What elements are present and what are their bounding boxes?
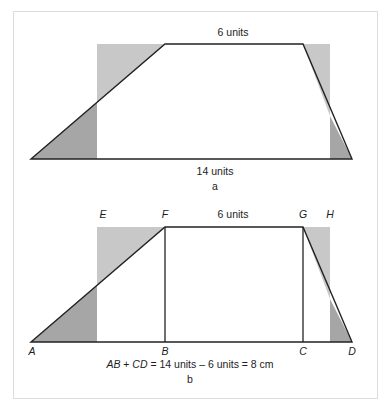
panel-b-equation: AB + CD = 14 units – 6 units = 8 cm <box>106 358 273 370</box>
equation-plus: + <box>120 358 132 370</box>
figure-root: 6 units 14 units a E F 6 units G H A B C… <box>0 0 391 413</box>
panel-b-top-length-label: 6 units <box>218 208 249 220</box>
panel-b-vertex-label-g: G <box>299 208 307 220</box>
figure-geometry <box>0 0 391 413</box>
panel-b-vertex-label-c: C <box>299 345 307 357</box>
panel-a-bottom-length-label: 14 units <box>197 165 234 177</box>
panel-a-top-length-label: 6 units <box>218 26 249 38</box>
panel-b-vertex-label-b: B <box>161 345 168 357</box>
panel-a-geometry <box>31 44 352 159</box>
panel-b-vertex-label-e: E <box>99 208 106 220</box>
panel-b-vertex-label-a: A <box>28 345 35 357</box>
panel-b-tag: b <box>187 373 193 385</box>
equation-term-ab: AB <box>106 358 120 370</box>
panel-b-geometry <box>31 227 352 342</box>
panel-b-vertex-label-h: H <box>326 208 334 220</box>
panel-b-vertex-label-f: F <box>162 208 168 220</box>
panel-b-vertex-label-d: D <box>348 345 356 357</box>
equation-term-cd: CD <box>132 358 147 370</box>
panel-a-tag: a <box>212 180 218 192</box>
equation-remainder: = 14 units – 6 units = 8 cm <box>148 358 274 370</box>
